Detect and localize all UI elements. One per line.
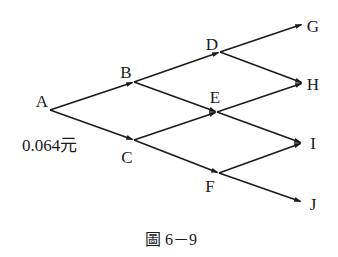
- node-label-g: G: [307, 18, 319, 35]
- tree-edges: [0, 0, 338, 257]
- edge-d-g: [220, 24, 302, 52]
- node-label-a: A: [36, 93, 48, 110]
- edge-b-e: [134, 82, 216, 111]
- node-label-j: J: [310, 196, 317, 213]
- edge-d-h: [220, 52, 302, 82]
- edge-f-i: [219, 144, 301, 173]
- edge-f-j: [219, 173, 301, 202]
- edge-e-h: [217, 83, 302, 112]
- figure-caption: 圖 6－9: [145, 232, 197, 248]
- node-label-c: C: [121, 149, 132, 166]
- node-label-i: I: [310, 135, 316, 152]
- edge-c-e: [134, 112, 216, 140]
- edge-c-f: [134, 140, 218, 172]
- edges-group: [50, 24, 302, 201]
- node-label-f: F: [205, 178, 214, 195]
- edge-b-d: [134, 52, 219, 82]
- option-value-label: 0.064元: [22, 137, 77, 154]
- node-label-e: E: [210, 89, 220, 106]
- edge-e-i: [217, 112, 301, 142]
- binomial-tree-diagram: ABCDEFGHIJ 0.064元 圖 6－9: [0, 0, 338, 257]
- node-label-b: B: [120, 64, 131, 81]
- node-label-d: D: [206, 36, 218, 53]
- node-label-h: H: [307, 76, 319, 93]
- edge-a-b: [50, 82, 133, 110]
